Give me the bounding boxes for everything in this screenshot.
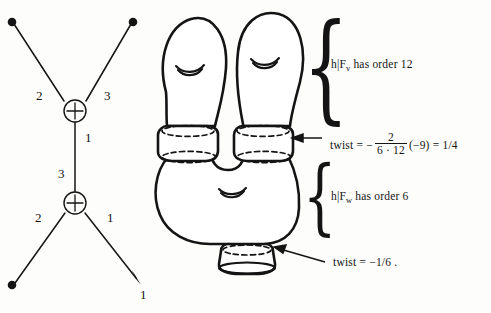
annotation-twist-lower: twist = −1/6 . [333, 256, 397, 269]
figure-canvas: { { 2 3 1 3 2 1 1 h|Fv has order 12 twis… [0, 0, 491, 313]
neck-left-band [158, 126, 218, 161]
annotation-twist-upper-lead: twist = − [330, 139, 373, 151]
arrow-head-twist-lower [274, 245, 286, 253]
fraction-numerator: 2 [375, 131, 407, 143]
edge-label-upper-right: 3 [104, 89, 111, 102]
endpoint-dot-bottom-left [8, 281, 17, 290]
edge-label-lower-right: 1 [107, 211, 114, 224]
neck-right-band [234, 126, 293, 161]
edge-label-middle-lower: 3 [58, 167, 65, 180]
annotation-order-fv-prefix: h|F [331, 58, 346, 70]
edge-label-lower-left: 2 [35, 211, 42, 224]
annotation-twist-upper-tail: (−9) = 1/4 [409, 139, 458, 151]
neck-bottom-tube [219, 244, 275, 274]
annotation-order-fw: h|Fw has order 6 [331, 190, 409, 205]
arrow-line-twist-lower [280, 249, 325, 262]
edge-label-middle-upper: 1 [85, 131, 92, 144]
edge-label-arrow-tip: 1 [140, 288, 147, 301]
endpoint-dot-top-left [8, 18, 17, 27]
annotation-twist-upper: twist = −26 · 12(−9) = 1/4 [330, 131, 458, 157]
annotation-order-fv: h|Fv has order 12 [331, 58, 413, 73]
lobe-right-outline [237, 13, 303, 126]
fraction-denominator: 6 · 12 [375, 143, 407, 157]
graph-edges [14, 24, 136, 283]
annotation-twist-upper-fraction: 26 · 12 [375, 131, 407, 157]
edge-label-upper-left: 2 [36, 89, 43, 102]
annotation-order-fw-prefix: h|F [331, 190, 346, 202]
annotation-order-fv-suffix: has order 12 [350, 58, 412, 70]
annotation-order-fw-suffix: has order 6 [352, 190, 408, 202]
endpoint-dot-top-right [129, 18, 138, 27]
